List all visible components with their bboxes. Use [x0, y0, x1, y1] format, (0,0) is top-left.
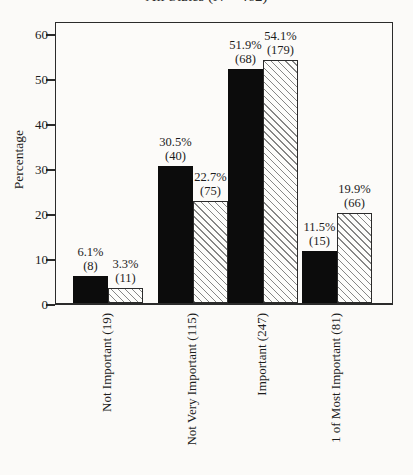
y-axis-title-text: Percentage	[11, 130, 26, 189]
bar-value-label: 19.9%(66)	[327, 182, 383, 210]
y-axis-tick-label: 10	[0, 253, 48, 267]
bar-count-text: (11)	[98, 271, 154, 285]
bar-hatched-diagonal-2	[193, 201, 228, 303]
y-axis-tick-label: 60	[0, 28, 48, 42]
y-axis-tick-label: 40	[0, 118, 48, 132]
x-axis-category-text: 1 of Most Important (81)	[328, 313, 343, 443]
bar-count-text: (66)	[327, 196, 383, 210]
y-axis-tick-label: 0	[0, 298, 48, 312]
x-axis-category-text: Not Very Important (115)	[184, 313, 199, 446]
bar-percent-text: 30.5%	[148, 135, 204, 149]
bar-count-text: (179)	[253, 43, 309, 57]
bar-percent-text: 54.1%	[253, 29, 309, 43]
bar-hatched-diagonal-1	[108, 288, 143, 303]
plot-area: 6.1%(8)30.5%(40)51.9%(68)11.5%(15)3.3%(1…	[55, 22, 393, 305]
chart-title: All States (N = 462)	[0, 0, 413, 4]
bar-chart-figure: All States (N = 462) Percentage 6.1%(8)3…	[0, 0, 413, 475]
x-axis-category-text: Important (247)	[254, 313, 269, 396]
bar-percent-text: 19.9%	[327, 182, 383, 196]
bar-hatched-diagonal-3	[263, 60, 298, 303]
bar-value-label: 30.5%(40)	[148, 135, 204, 163]
bar-hatched-diagonal-4	[337, 213, 372, 303]
y-axis-tick-label: 50	[0, 73, 48, 87]
bar-value-label: 22.7%(75)	[183, 170, 239, 198]
y-axis-tick-label: 30	[0, 163, 48, 177]
bar-count-text: (40)	[148, 149, 204, 163]
bar-filled-black-4	[302, 251, 337, 303]
bar-percent-text: 3.3%	[98, 257, 154, 271]
x-axis-category-text: Not Important (19)	[99, 313, 114, 412]
bar-value-label: 54.1%(179)	[253, 29, 309, 57]
bar-count-text: (75)	[183, 184, 239, 198]
bar-percent-text: 22.7%	[183, 170, 239, 184]
y-axis-tick-label: 20	[0, 208, 48, 222]
bar-value-label: 3.3%(11)	[98, 257, 154, 285]
